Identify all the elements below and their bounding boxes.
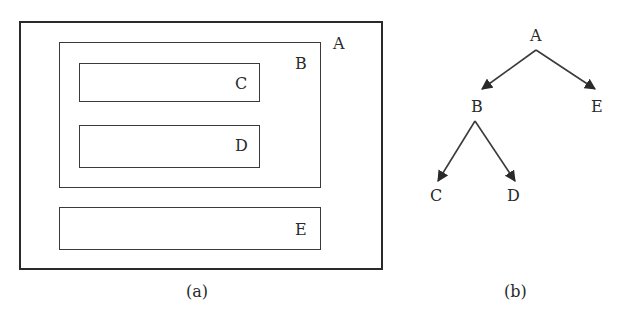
edge-b-d bbox=[475, 121, 515, 181]
caption-b: (b) bbox=[504, 284, 527, 300]
edge-b-c bbox=[438, 121, 475, 181]
tree-node-d: D bbox=[507, 188, 520, 204]
tree-node-b: B bbox=[471, 99, 483, 115]
tree-node-e: E bbox=[591, 99, 603, 115]
tree-edges bbox=[0, 0, 618, 317]
edge-a-b bbox=[482, 50, 536, 89]
tree-node-a: A bbox=[530, 28, 542, 44]
edge-a-e bbox=[536, 50, 595, 89]
tree-node-c: C bbox=[430, 188, 442, 204]
